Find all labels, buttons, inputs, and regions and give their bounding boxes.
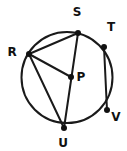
vertex-dot-v [104,107,110,113]
geometry-canvas: R S T V U P [0,0,127,151]
point-label-s: S [73,5,82,19]
geometry-figure: R S T V U P [0,0,127,151]
point-label-r: R [7,45,16,59]
vertex-dot-t [101,44,107,50]
vertex-dot-s [75,30,81,36]
point-label-p: P [77,70,86,84]
segment-ru [29,54,64,128]
point-label-t: T [107,20,116,34]
vertex-dot-p [68,74,74,80]
vertex-dot-r [26,51,32,57]
point-label-u: U [58,136,68,150]
point-label-v: V [111,110,121,124]
vertex-dot-u [61,125,67,131]
